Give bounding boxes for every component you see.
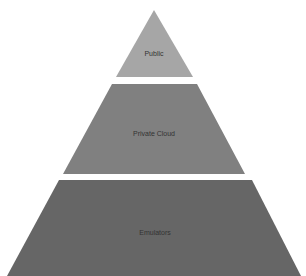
tier-shape-public [116, 10, 193, 77]
pyramid-tier-public: Public [116, 10, 193, 77]
tier-label-private-cloud: Private Cloud [133, 130, 175, 137]
pyramid-tier-emulators: Emulators [7, 180, 301, 276]
tier-label-public: Public [144, 50, 164, 57]
tier-label-emulators: Emulators [139, 229, 171, 236]
pyramid-diagram: Public Private Cloud Emulators [0, 0, 306, 276]
pyramid-tier-private-cloud: Private Cloud [63, 84, 245, 174]
